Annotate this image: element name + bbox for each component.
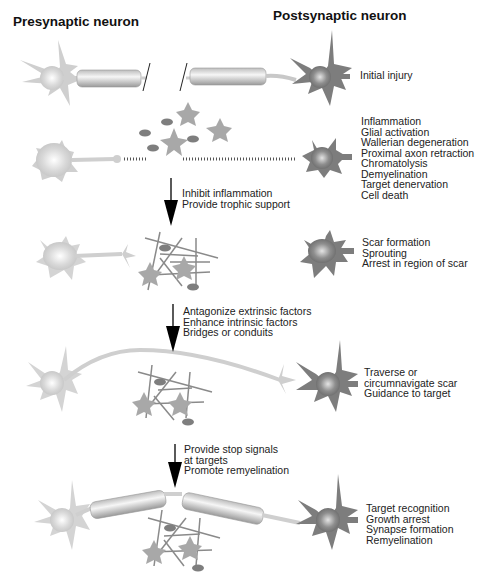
outcome-item: Scar formation <box>362 237 468 248</box>
intervention-line: Bridges or conduits <box>183 327 311 338</box>
microglia <box>182 419 194 426</box>
arrow-stage-3 <box>168 444 182 488</box>
cut-mark <box>180 63 187 91</box>
outcome-item: Initial injury <box>360 70 413 81</box>
microglia <box>139 130 151 137</box>
stage-scar <box>36 230 354 291</box>
outcome-list-initial: Initial injury <box>360 70 413 81</box>
outcome-item: Synapse formation <box>366 524 454 535</box>
intervention-line: Inhibit inflammation <box>182 188 290 199</box>
intervention-3: Provide stop signals at targets Promote … <box>184 444 289 476</box>
arrow-stage-1 <box>164 178 178 226</box>
outcome-item: Traverse or <box>364 367 457 378</box>
glial-cell <box>132 392 156 416</box>
myelin-sheath <box>77 70 141 87</box>
microglia <box>187 284 199 291</box>
microglia <box>161 119 173 126</box>
microglia <box>154 379 166 386</box>
glial-cell <box>172 256 196 280</box>
microglia <box>187 136 199 143</box>
outcome-item: Guidance to target <box>364 388 457 399</box>
outcome-item: Target recognition <box>366 503 454 514</box>
outcome-item: Chromatolysis <box>361 158 474 169</box>
microglia <box>192 565 204 572</box>
intervention-line: Promote remyelination <box>184 465 289 476</box>
neuron-injury-diagram <box>0 0 479 581</box>
outcome-item: Cell death <box>361 190 474 201</box>
stage-regrowth <box>26 340 358 426</box>
glial-cell <box>142 540 166 564</box>
intervention-line: Provide trophic support <box>182 199 290 210</box>
stage-acute-response <box>32 102 352 182</box>
outcome-list-recovery: Target recognition Growth arrest Synapse… <box>366 503 454 545</box>
microglia <box>159 245 171 252</box>
outcome-list-acute: Inflammation Glial activation Wallerian … <box>361 116 474 200</box>
intervention-line: Antagonize extrinsic factors <box>183 306 311 317</box>
glial-cell <box>176 102 200 126</box>
stage-recovery <box>34 474 358 572</box>
arrow-stage-2 <box>166 304 180 352</box>
outcome-item: Wallerian degeneration <box>361 137 474 148</box>
outcome-list-scar: Scar formation Sprouting Arrest in regio… <box>362 237 468 269</box>
outcome-item: Remyelination <box>366 535 454 546</box>
glial-cell <box>206 118 232 142</box>
outcome-item: Arrest in region of scar <box>362 258 468 269</box>
microglia <box>164 525 176 532</box>
glial-cell <box>160 128 188 156</box>
intervention-2: Antagonize extrinsic factors Enhance int… <box>183 306 311 338</box>
intervention-1: Inhibit inflammation Provide trophic sup… <box>182 188 290 209</box>
stage-initial-injury <box>20 30 352 106</box>
myelin-sheath <box>190 68 266 85</box>
presynaptic-header: Presynaptic neuron <box>13 14 139 29</box>
outcome-item: Target denervation <box>361 179 474 190</box>
outcome-item: Inflammation <box>361 116 474 127</box>
myelin-sheath <box>181 492 265 526</box>
postsynaptic-header: Postsynaptic neuron <box>273 8 407 23</box>
myelin-sheath <box>89 490 167 520</box>
microglia <box>147 145 159 152</box>
regenerating-axon <box>64 350 280 380</box>
intervention-line: Provide stop signals <box>184 444 289 455</box>
outcome-list-regrowth: Traverse or circumnavigate scar Guidance… <box>364 367 457 399</box>
